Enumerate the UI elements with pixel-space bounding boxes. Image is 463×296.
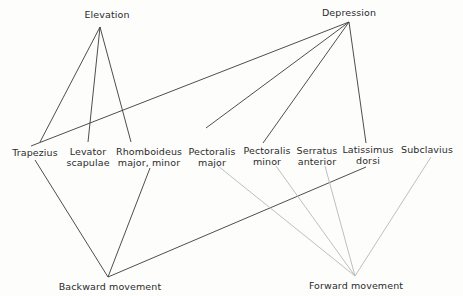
line-forward-subclavius [355,157,431,276]
line-elevation-levator [88,27,100,142]
latissimus-label-line2: dorsi [342,155,393,166]
serratus-label-line2: anterior [297,156,338,167]
levator-label-line2: scapulae [66,157,109,168]
scapular-muscle-action-diagram: Elevation Depression Backward movement F… [0,0,463,296]
line-forward-serratus [325,166,355,276]
muscle-rhomboideus: Rhomboideus major, minor [116,146,182,168]
line-backward-trapezius [35,160,108,277]
line-elevation-rhomboideus [100,27,131,142]
muscle-levator-scapulae: Levator scapulae [66,146,109,168]
line-forward-pect-minor [276,166,355,276]
line-depression-pect-minor [263,22,349,143]
pect-minor-label-line1: Pectoralis [244,145,291,156]
elevation-label: Elevation [84,9,129,20]
action-depression: Depression [322,7,376,18]
line-backward-latissimus [108,167,366,277]
subclavius-label: Subclavius [401,144,453,155]
action-backward-movement: Backward movement [59,281,162,292]
pect-minor-label-line2: minor [244,156,291,167]
muscle-subclavius: Subclavius [401,144,453,155]
serratus-label-line1: Serratus [297,145,338,156]
depression-label: Depression [322,7,376,18]
levator-label-line1: Levator [66,146,109,157]
line-depression-trapezius [31,22,349,146]
backward-movement-label: Backward movement [59,281,162,292]
muscle-serratus-anterior: Serratus anterior [297,145,338,167]
action-elevation: Elevation [84,9,129,20]
rhomboideus-label-line1: Rhomboideus [116,146,182,157]
muscle-pectoralis-major: Pectoralis major [189,146,236,168]
trapezius-label: Trapezius [12,147,58,158]
pect-major-label-line1: Pectoralis [189,146,236,157]
line-elevation-trapezius [40,27,100,142]
muscle-pectoralis-minor: Pectoralis minor [244,145,291,167]
line-backward-rhomboideus [108,168,150,277]
line-depression-latissimus [349,22,366,143]
action-forward-movement: Forward movement [309,280,403,291]
rhomboideus-label-line2: major, minor [116,157,182,168]
forward-movement-label: Forward movement [309,280,403,291]
muscle-latissimus-dorsi: Latissimus dorsi [342,144,393,166]
line-depression-pect-major [206,22,349,128]
pect-major-label-line2: major [189,157,236,168]
muscle-trapezius: Trapezius [12,147,58,158]
latissimus-label-line1: Latissimus [342,144,393,155]
